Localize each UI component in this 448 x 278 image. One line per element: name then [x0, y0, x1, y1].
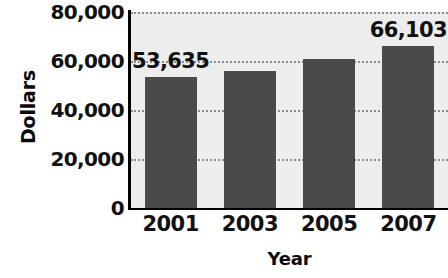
bar-group: 53,635	[131, 12, 210, 208]
plot-area: 53,63566,103	[131, 12, 448, 208]
bar-value-label: 66,103	[370, 18, 447, 42]
x-axis-tick-labels: 2001200320052007	[131, 212, 448, 244]
y-tick-label: 0	[28, 196, 124, 220]
bar-group: 66,103	[369, 12, 448, 208]
bars-layer: 53,63566,103	[131, 12, 448, 208]
bar-group	[290, 12, 369, 208]
y-tick-label: 60,000	[28, 49, 124, 73]
bar	[382, 46, 434, 208]
y-axis-tick-labels: 020,00040,00060,00080,000	[28, 0, 124, 278]
x-tick-label: 2007	[380, 212, 436, 236]
x-axis-title: Year	[131, 248, 448, 269]
x-tick-label: 2005	[301, 212, 357, 236]
x-tick-label: 2003	[222, 212, 278, 236]
y-tick-label: 80,000	[28, 0, 124, 24]
y-tick-label: 40,000	[28, 98, 124, 122]
bar-chart: Dollars 020,00040,00060,00080,000 53,635…	[0, 0, 448, 278]
bar	[145, 77, 197, 208]
bar	[303, 59, 355, 208]
y-tick-label: 20,000	[28, 147, 124, 171]
bar	[224, 71, 276, 208]
bar-group	[210, 12, 289, 208]
bar-value-label: 53,635	[132, 49, 209, 73]
x-tick-label: 2001	[143, 212, 199, 236]
